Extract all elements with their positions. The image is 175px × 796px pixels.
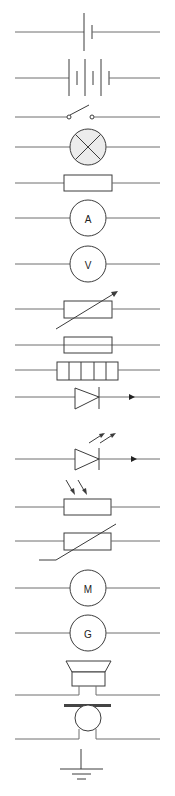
ammeter-label: A xyxy=(85,214,92,225)
cell-symbol xyxy=(15,13,160,51)
motor-label: M xyxy=(84,584,92,595)
loudspeaker-symbol xyxy=(15,661,160,695)
segmented-component-symbol xyxy=(15,362,160,380)
earth-symbol xyxy=(60,749,103,779)
voltmeter-symbol: V xyxy=(15,246,160,282)
diode-symbol xyxy=(15,387,160,409)
circuit-symbols-chart: A V xyxy=(0,0,175,796)
fuse-symbol xyxy=(15,337,160,353)
generator-label: G xyxy=(84,629,92,640)
led-symbol xyxy=(15,433,160,470)
voltmeter-label: V xyxy=(85,260,92,271)
microphone-symbol xyxy=(15,704,160,739)
battery-symbol xyxy=(15,59,160,96)
fixed-resistor-symbol xyxy=(15,175,160,191)
motor-symbol: M xyxy=(15,570,160,606)
ldr-symbol xyxy=(15,480,160,515)
lamp-symbol xyxy=(15,129,160,165)
ammeter-symbol: A xyxy=(15,200,160,236)
switch-symbol xyxy=(15,105,160,119)
generator-symbol: G xyxy=(15,615,160,651)
variable-resistor-symbol xyxy=(15,291,160,329)
thermistor-symbol xyxy=(15,524,160,560)
